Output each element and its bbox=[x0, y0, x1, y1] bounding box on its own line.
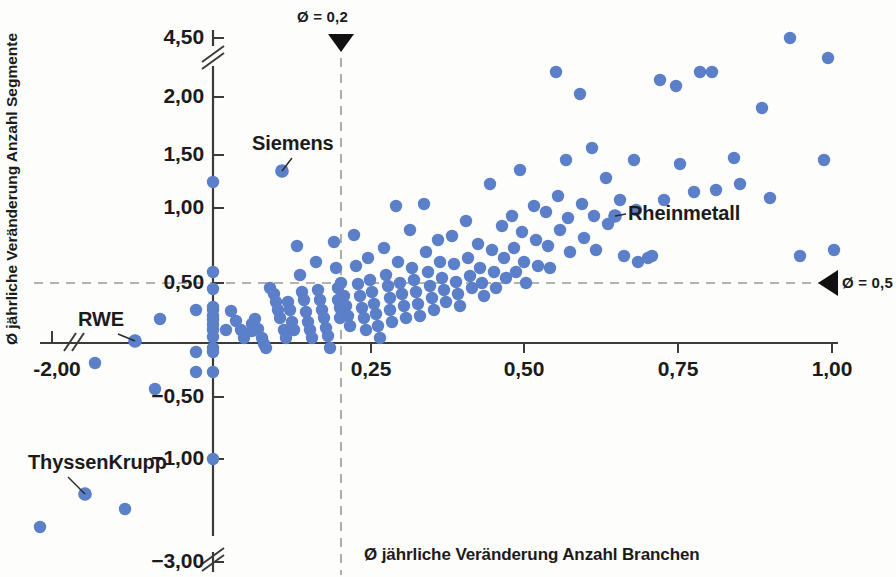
data-point bbox=[404, 224, 416, 236]
mean-x-label: Ø = 0,2 bbox=[297, 8, 348, 25]
data-point bbox=[478, 290, 490, 302]
data-point bbox=[291, 240, 303, 252]
data-point bbox=[207, 453, 219, 465]
annotation-label-rheinmetall: Rheinmetall bbox=[628, 202, 740, 225]
data-point bbox=[618, 250, 630, 262]
data-point bbox=[370, 308, 382, 320]
mean-x-triangle-icon bbox=[328, 34, 354, 52]
x-tick-label: -2,00 bbox=[33, 357, 80, 381]
data-point bbox=[490, 282, 502, 294]
data-point bbox=[352, 278, 364, 290]
x-tick-label: 0,50 bbox=[504, 357, 544, 381]
x-axis-title: Ø jährliche Veränderung Anzahl Branchen bbox=[364, 545, 700, 565]
x-tick-label: 1,00 bbox=[812, 357, 852, 381]
annotation-leader bbox=[68, 477, 85, 494]
data-point bbox=[822, 52, 834, 64]
data-point bbox=[694, 66, 706, 78]
data-point bbox=[207, 176, 219, 188]
data-point bbox=[348, 229, 360, 241]
data-point bbox=[488, 266, 500, 278]
data-point bbox=[360, 324, 372, 336]
data-point bbox=[288, 324, 300, 336]
y-tick-label: −0,50 bbox=[130, 384, 204, 408]
x-tick-label: 0,75 bbox=[658, 357, 698, 381]
data-point bbox=[764, 192, 776, 204]
data-point bbox=[476, 277, 488, 289]
data-point bbox=[190, 366, 202, 378]
data-point bbox=[628, 154, 640, 166]
data-point bbox=[207, 366, 219, 378]
data-point bbox=[350, 260, 362, 272]
data-point bbox=[452, 288, 464, 300]
data-point bbox=[434, 256, 446, 268]
data-point bbox=[89, 357, 101, 369]
data-point bbox=[540, 206, 552, 218]
data-point bbox=[446, 230, 458, 242]
data-point bbox=[728, 152, 740, 164]
data-point bbox=[516, 226, 528, 238]
data-point bbox=[440, 296, 452, 308]
data-point bbox=[432, 234, 444, 246]
data-point bbox=[544, 262, 556, 274]
data-point bbox=[506, 210, 518, 222]
data-point bbox=[398, 300, 410, 312]
data-point bbox=[362, 252, 374, 264]
data-point bbox=[498, 252, 510, 264]
data-point bbox=[406, 262, 418, 274]
chart-canvas: -2,000,250,500,751,004,502,001,501,000,5… bbox=[0, 0, 896, 577]
annotation-label-rwe: RWE bbox=[78, 308, 124, 331]
data-point bbox=[794, 250, 806, 262]
data-point bbox=[756, 102, 768, 114]
data-point bbox=[528, 200, 540, 212]
data-point bbox=[564, 246, 576, 258]
data-point bbox=[784, 32, 796, 44]
y-tick-label: 1,00 bbox=[130, 195, 204, 219]
data-point bbox=[390, 200, 402, 212]
data-point bbox=[207, 266, 219, 278]
data-point bbox=[550, 66, 562, 78]
data-point bbox=[474, 262, 486, 274]
data-point bbox=[460, 215, 472, 227]
data-point bbox=[207, 346, 219, 358]
data-point bbox=[154, 313, 166, 325]
data-point bbox=[670, 80, 682, 92]
data-point bbox=[518, 256, 530, 268]
data-point bbox=[378, 242, 390, 254]
data-point bbox=[335, 277, 347, 289]
data-point bbox=[322, 330, 334, 342]
data-point bbox=[380, 269, 392, 281]
data-point bbox=[412, 298, 424, 310]
data-point bbox=[710, 184, 722, 196]
data-point bbox=[220, 324, 232, 336]
data-point bbox=[34, 521, 46, 533]
data-point bbox=[324, 342, 336, 354]
data-point bbox=[574, 88, 586, 100]
data-point bbox=[260, 342, 272, 354]
data-point bbox=[382, 280, 394, 292]
annotation-label-thyssenkrupp: ThyssenKrupp bbox=[28, 451, 167, 474]
data-point bbox=[508, 242, 520, 254]
data-point bbox=[654, 74, 666, 86]
data-point bbox=[818, 154, 830, 166]
data-point bbox=[510, 266, 522, 278]
data-point bbox=[486, 244, 498, 256]
data-point bbox=[372, 320, 384, 332]
mean-y-triangle-icon bbox=[818, 270, 838, 296]
y-tick-label: 2,00 bbox=[130, 84, 204, 108]
data-point bbox=[586, 142, 598, 154]
data-point bbox=[588, 210, 600, 222]
data-point bbox=[454, 300, 466, 312]
data-point bbox=[298, 294, 310, 306]
data-point bbox=[532, 260, 544, 272]
data-point bbox=[464, 270, 476, 282]
data-point bbox=[190, 304, 202, 316]
y-axis-break-mark bbox=[202, 46, 224, 62]
data-point bbox=[600, 172, 612, 184]
data-point bbox=[310, 256, 322, 268]
data-point bbox=[328, 236, 340, 248]
data-point bbox=[207, 283, 219, 295]
data-point bbox=[190, 346, 202, 358]
data-point bbox=[484, 178, 496, 190]
data-point bbox=[394, 277, 406, 289]
data-point bbox=[274, 312, 286, 324]
